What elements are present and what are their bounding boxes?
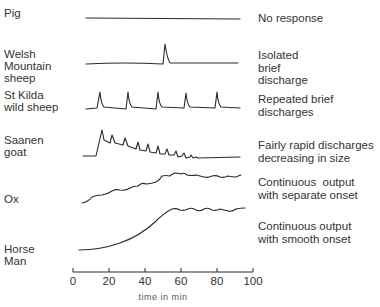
tick-20: 20 (103, 275, 116, 287)
tick-40: 40 (139, 275, 152, 287)
x-axis (73, 268, 253, 272)
response-traces: 0 20 40 60 80 100 time in min (0, 0, 380, 307)
tick-100: 100 (243, 275, 262, 287)
trace-saanen (83, 130, 240, 158)
tick-60: 60 (175, 275, 188, 287)
trace-horse-man (79, 208, 245, 250)
trace-stkilda (86, 92, 240, 109)
tick-80: 80 (211, 275, 224, 287)
trace-welsh (86, 44, 238, 64)
trace-pig (86, 18, 240, 19)
tick-0: 0 (70, 275, 76, 287)
x-axis-title: time in min (138, 292, 187, 302)
trace-ox (82, 173, 241, 203)
